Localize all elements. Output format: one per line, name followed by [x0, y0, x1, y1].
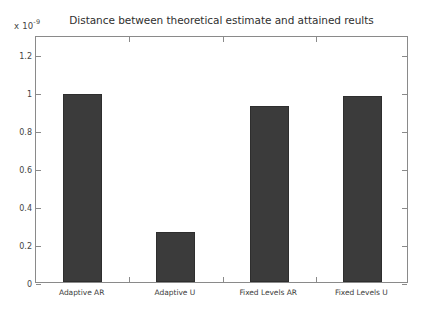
- bar-fixed-levels-u: [343, 96, 382, 282]
- y-tick-label: 0.6: [19, 166, 32, 175]
- y-tick-mark-right: [402, 132, 407, 133]
- y-axis-tick: 1.2: [36, 56, 407, 57]
- y-tick-label: 0.2: [19, 242, 32, 251]
- y-tick-mark-left: [36, 94, 41, 95]
- plot-area: 00.20.40.60.811.2: [35, 36, 408, 283]
- y-tick-mark-left: [36, 246, 41, 247]
- y-tick-mark-right: [402, 208, 407, 209]
- y-tick-label: 0: [27, 280, 32, 289]
- bar-adaptive-ar: [63, 94, 102, 282]
- y-tick-label: 1: [27, 90, 32, 99]
- x-tick-mark-top: [129, 37, 130, 42]
- x-axis-label-fixed-levels-u: Fixed Levels U: [335, 288, 388, 297]
- figure-canvas: x 10-9 Distance between theoretical esti…: [0, 0, 426, 310]
- x-tick-mark-bottom: [316, 277, 317, 282]
- y-tick-label: 0.8: [19, 128, 32, 137]
- y-tick-label: 1.2: [19, 52, 32, 61]
- bar-fixed-levels-ar: [250, 106, 289, 282]
- bar-adaptive-u: [156, 232, 195, 282]
- y-tick-label: 0.4: [19, 204, 32, 213]
- plot-inner: 00.20.40.60.811.2: [36, 37, 407, 282]
- y-tick-mark-right: [402, 56, 407, 57]
- y-tick-mark-left: [36, 208, 41, 209]
- x-axis-label-adaptive-u: Adaptive U: [155, 288, 196, 297]
- x-axis-label-adaptive-ar: Adaptive AR: [59, 288, 104, 297]
- chart-title: Distance between theoretical estimate an…: [35, 14, 408, 26]
- y-tick-mark-left: [36, 170, 41, 171]
- y-axis-tick: 0: [36, 284, 407, 285]
- x-tick-mark-top: [223, 37, 224, 42]
- x-axis-label-fixed-levels-ar: Fixed Levels AR: [239, 288, 297, 297]
- y-tick-mark-right: [402, 284, 407, 285]
- y-tick-mark-right: [402, 246, 407, 247]
- y-tick-mark-left: [36, 56, 41, 57]
- y-tick-mark-right: [402, 170, 407, 171]
- x-tick-mark-bottom: [223, 277, 224, 282]
- y-tick-mark-left: [36, 284, 41, 285]
- y-tick-mark-left: [36, 132, 41, 133]
- y-tick-mark-right: [402, 94, 407, 95]
- x-tick-mark-bottom: [129, 277, 130, 282]
- x-tick-mark-top: [316, 37, 317, 42]
- axis-exponent-mantissa: x 10: [14, 21, 33, 31]
